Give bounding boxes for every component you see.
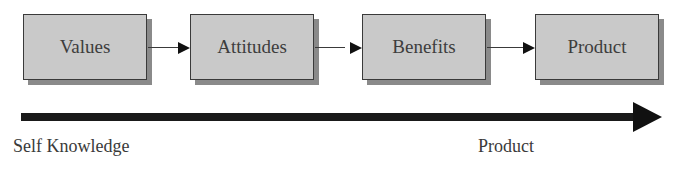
node-benefits: Benefits	[362, 14, 486, 80]
arrowhead-icon	[178, 42, 190, 54]
node-label: Benefits	[392, 36, 455, 58]
progress-axis-line	[21, 113, 635, 121]
edge-values-attitudes	[148, 47, 178, 48]
axis-start-label: Self Knowledge	[13, 136, 129, 157]
node-values: Values	[23, 14, 147, 80]
node-attitudes: Attitudes	[190, 14, 314, 80]
edge-attitudes-benefits	[315, 47, 345, 48]
edge-benefits-product	[487, 47, 523, 48]
node-label: Product	[567, 36, 626, 58]
arrowhead-icon	[523, 42, 535, 54]
node-product: Product	[535, 14, 659, 80]
progress-axis-arrowhead-icon	[633, 102, 662, 132]
node-label: Values	[60, 36, 111, 58]
arrowhead-icon	[350, 42, 362, 54]
node-label: Attitudes	[217, 36, 287, 58]
axis-end-label: Product	[478, 136, 534, 157]
